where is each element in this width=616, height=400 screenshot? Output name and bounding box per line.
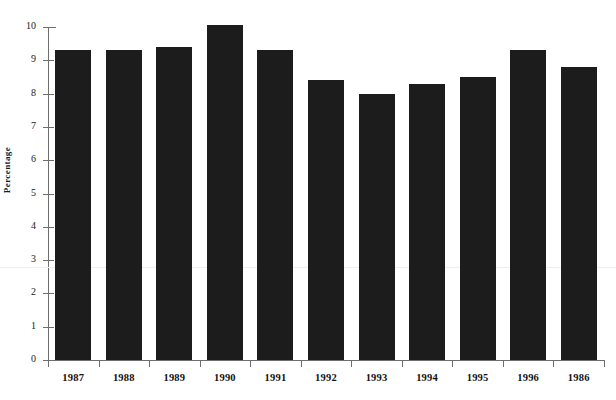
x-tick-mark <box>48 360 49 367</box>
y-tick-label: 2 <box>0 286 36 297</box>
x-tick-mark <box>99 360 100 367</box>
y-axis-label: Percentage <box>2 120 12 220</box>
y-tick-label: 1 <box>0 320 36 331</box>
x-axis-line <box>48 360 604 361</box>
bar <box>207 25 243 360</box>
bar <box>308 80 344 360</box>
x-tick-mark <box>301 360 302 367</box>
x-tick-mark <box>452 360 453 367</box>
y-tick-mark <box>43 293 54 294</box>
y-tick-mark <box>43 194 54 195</box>
y-tick-mark <box>43 94 54 95</box>
y-tick-label: 5 <box>0 187 36 198</box>
y-tick-label: 8 <box>0 87 36 98</box>
bar <box>156 47 192 360</box>
bar <box>257 50 293 360</box>
bar <box>561 67 597 360</box>
y-tick-mark <box>43 160 54 161</box>
y-tick-label: 0 <box>0 353 36 364</box>
y-tick-mark <box>43 60 54 61</box>
x-tick-mark <box>351 360 352 367</box>
y-tick-label: 7 <box>0 120 36 131</box>
bar <box>106 50 142 360</box>
x-tick-label: 1986 <box>549 372 609 383</box>
y-tick-mark <box>43 27 56 28</box>
bar <box>460 77 496 360</box>
bar <box>359 94 395 360</box>
bar-chart: Percentage 012345678910 1987198819891990… <box>0 0 616 400</box>
y-tick-label: 3 <box>0 253 36 264</box>
x-tick-mark <box>200 360 201 367</box>
y-tick-mark <box>43 227 54 228</box>
x-tick-mark <box>149 360 150 367</box>
x-tick-mark <box>250 360 251 367</box>
x-tick-mark <box>402 360 403 367</box>
y-tick-mark <box>43 127 54 128</box>
x-tick-mark <box>604 360 605 367</box>
bar <box>409 84 445 360</box>
y-tick-mark <box>43 260 54 261</box>
y-tick-label: 4 <box>0 220 36 231</box>
x-tick-mark <box>503 360 504 367</box>
y-tick-mark <box>43 327 54 328</box>
bar <box>510 50 546 360</box>
x-tick-mark <box>553 360 554 367</box>
y-tick-label: 9 <box>0 53 36 64</box>
bar <box>55 50 91 360</box>
y-tick-label: 10 <box>0 20 36 31</box>
y-tick-label: 6 <box>0 153 36 164</box>
